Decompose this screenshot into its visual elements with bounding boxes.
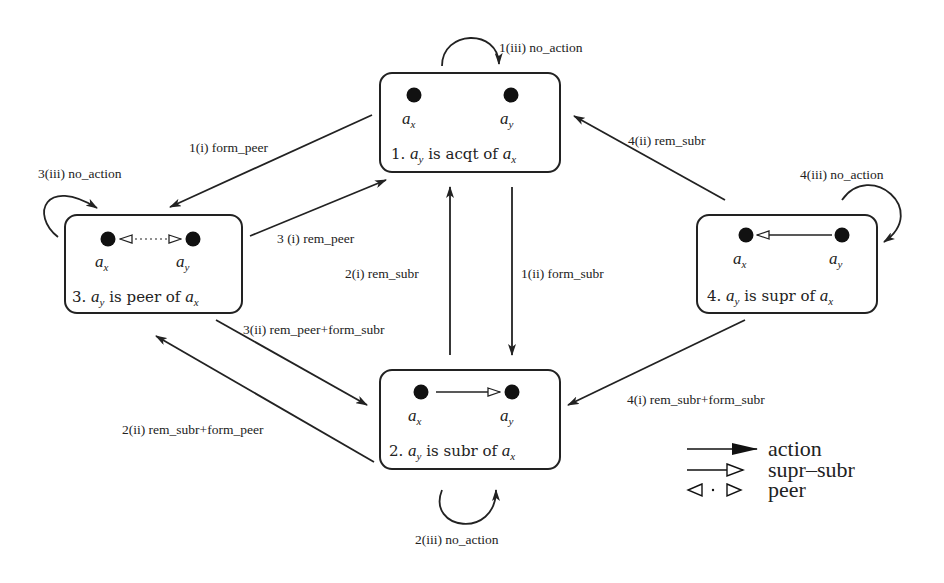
- transition-4-ii-arrow: [574, 116, 725, 200]
- legend-peer-label: peer: [768, 477, 807, 502]
- state-2-box: ax ay 2. ay is subr of ax: [380, 370, 560, 469]
- transition-2-iii-arrow: [440, 490, 496, 524]
- state-4-box: ax ay 4. ay is supr of ax: [697, 215, 877, 313]
- transition-1-iii-label: 1(iii) no_action: [499, 40, 583, 55]
- transition-1-iii-arrow: [442, 38, 499, 66]
- state-diagram: ax ay 1. ay is acqt of ax ax ay 3. ay is…: [0, 0, 944, 583]
- agent-y-node: [186, 232, 201, 247]
- agent-y-node: [835, 228, 850, 243]
- transition-4-i-label: 4(i) rem_subr+form_subr: [627, 392, 765, 407]
- agent-y-node: [505, 385, 520, 400]
- transition-4-iii-label: 4(iii) no_action: [800, 167, 884, 182]
- state-3-caption: 3. ay is peer of ax: [72, 287, 199, 308]
- state-4-caption: 4. ay is supr of ax: [707, 286, 833, 307]
- transition-3-i-label: 3 (i) rem_peer: [277, 231, 355, 246]
- agent-x-node: [407, 88, 422, 103]
- transition-4-ii-label: 4(ii) rem_subr: [628, 133, 706, 148]
- agent-x-node: [414, 385, 429, 400]
- transition-1-ii-label: 1(ii) form_subr: [521, 266, 604, 281]
- transition-2-iii-label: 2(iii) no_action: [415, 532, 499, 547]
- state-1-caption: 1. ay is acqt of ax: [391, 144, 516, 165]
- state-3-box: ax ay 3. ay is peer of ax: [65, 215, 242, 313]
- legend-peer-right-head-icon: [727, 484, 741, 496]
- transition-2-ii-label: 2(ii) rem_subr+form_peer: [122, 422, 264, 437]
- legend-peer-left-head-icon: [688, 484, 702, 496]
- state-2-caption: 2. ay is subr of ax: [389, 441, 515, 462]
- legend-supr-subr-head-icon: [727, 464, 743, 476]
- agent-y-node: [504, 88, 519, 103]
- transition-1-i-arrow: [170, 115, 372, 207]
- agent-x-node: [101, 232, 116, 247]
- transition-2-ii-arrow: [156, 336, 374, 462]
- transition-1-i-label: 1(i) form_peer: [189, 140, 269, 155]
- legend-peer-dot: [712, 489, 714, 491]
- legend: action supr–subr peer: [687, 436, 855, 502]
- agent-x-node: [739, 228, 754, 243]
- transition-3-ii-label: 3(ii) rem_peer+form_subr: [243, 322, 385, 337]
- state-1-box: ax ay 1. ay is acqt of ax: [380, 73, 560, 172]
- transition-2-i-label: 2(i) rem_subr: [345, 266, 419, 281]
- transition-3-iii-label: 3(iii) no_action: [38, 166, 122, 181]
- transition-3-i-arrow: [250, 180, 386, 236]
